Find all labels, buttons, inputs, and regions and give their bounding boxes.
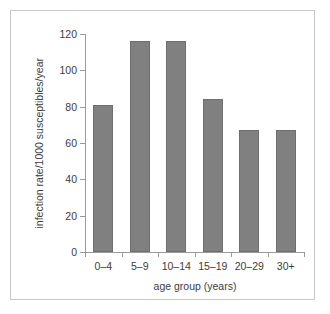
bar [93,105,113,252]
x-axis-tick [231,252,232,257]
y-axis-tick-label: 120 [59,29,77,40]
y-axis-tick [80,34,85,35]
bar [276,130,296,252]
x-axis-tick-label: 5–9 [131,261,149,272]
x-axis-tick [158,252,159,257]
bar [239,130,259,252]
x-axis-tick [195,252,196,257]
bar [203,99,223,252]
x-axis-tick-label: 15–19 [198,261,227,272]
y-axis-tick [80,107,85,108]
plot-area: 020406080100120 [85,34,304,252]
y-axis-tick-label: 60 [65,138,77,149]
y-axis-title-text: infection rate/1000 susceptibles/year [34,58,45,228]
x-axis-tick [85,252,86,257]
y-axis-tick [80,143,85,144]
x-axis-tick [268,252,269,257]
y-axis-tick-label: 80 [65,101,77,112]
y-axis-tick [80,179,85,180]
x-axis-tick-label: 0–4 [94,261,112,272]
x-axis-tick [122,252,123,257]
x-axis-tick-label: 30+ [277,261,295,272]
chart-figure-frame: infection rate/1000 susceptibles/year 02… [10,10,315,300]
y-axis-tick-label: 0 [71,247,77,258]
y-axis-tick-label: 20 [65,210,77,221]
y-axis-title: infection rate/1000 susceptibles/year [32,34,46,253]
x-axis-tick-label: 10–14 [162,261,191,272]
y-axis-tick-label: 40 [65,174,77,185]
x-axis-tick-label: 20–29 [235,261,264,272]
x-axis-title: age group (years) [85,281,305,292]
y-axis-tick [80,216,85,217]
bar [166,41,186,252]
x-axis-tick [304,252,305,257]
y-axis-tick-label: 100 [59,65,77,76]
bar [130,41,150,252]
y-axis-tick [80,70,85,71]
